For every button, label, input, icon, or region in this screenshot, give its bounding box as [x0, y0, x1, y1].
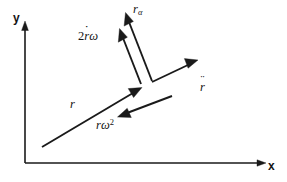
vector-diagram-figure: x y r r rω2 2rω rα — [0, 0, 287, 182]
y-axis-arrowhead — [22, 21, 29, 31]
vector-label-r-alpha: rα — [133, 3, 142, 16]
x-axis-arrowhead — [257, 160, 266, 166]
vector-r-arrowhead — [128, 88, 142, 98]
axes-group — [22, 21, 266, 166]
vector-r-ddot — [152, 59, 198, 82]
vector-label-r-omega-squared: rω2 — [96, 118, 114, 131]
vector-r-ddot-shaft — [152, 65, 189, 83]
vector-label-r-ddot-text: r — [200, 81, 205, 94]
vector-diagram-canvas — [0, 0, 287, 182]
vector-label-r-omega-squared-base: r — [96, 119, 101, 132]
alpha-glyph: α — [138, 7, 142, 17]
omega-glyph: ω — [101, 118, 110, 132]
vector-label-r: r — [70, 98, 75, 111]
vector-r-omega-squared-arrowhead — [118, 108, 132, 117]
vector-two-rdot-omega — [118, 29, 141, 85]
vector-label-two-rdot-omega: 2rω — [78, 30, 98, 43]
vector-r-shaft — [42, 93, 133, 147]
vector-r-alpha-arrowhead — [124, 13, 133, 27]
vector-r-alpha — [124, 13, 152, 82]
x-axis-label: x — [268, 160, 275, 172]
vector-label-r-text: r — [70, 98, 75, 111]
vector-label-r-alpha-base: r — [133, 3, 138, 16]
vector-r-omega-squared-shaft — [127, 96, 172, 113]
vector-r-alpha-shaft — [129, 22, 152, 81]
exponent-two: 2 — [110, 117, 114, 127]
omega-glyph: ω — [89, 29, 98, 43]
vector-label-two-rdot-omega-base: r — [84, 30, 89, 43]
y-axis-label: y — [13, 12, 20, 24]
vector-r-omega-squared — [118, 96, 173, 118]
vector-label-r-ddot: r — [200, 81, 205, 94]
